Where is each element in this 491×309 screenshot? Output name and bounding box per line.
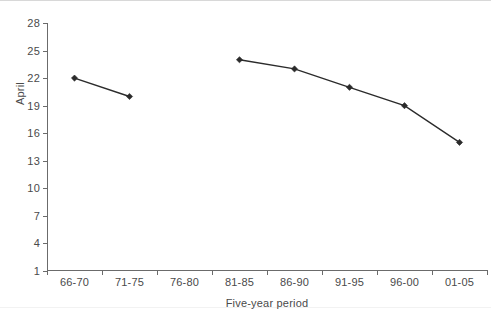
x-tick-label-66-70: 66-70 bbox=[60, 276, 89, 288]
x-tick-label-76-80: 76-80 bbox=[170, 276, 199, 288]
y-tick-label-25: 25 bbox=[27, 45, 40, 57]
x-tick-label-81-85: 81-85 bbox=[225, 276, 254, 288]
x-tick-8 bbox=[487, 270, 488, 275]
x-axis-title: Five-year period bbox=[47, 297, 487, 309]
series-april bbox=[47, 23, 487, 271]
y-tick-label-16: 16 bbox=[27, 127, 40, 139]
y-axis-title: April bbox=[14, 82, 26, 105]
series-segment bbox=[75, 78, 130, 96]
x-tick-label-01-05: 01-05 bbox=[445, 276, 474, 288]
x-tick-label-91-95: 91-95 bbox=[335, 276, 364, 288]
series-segment bbox=[240, 60, 460, 143]
y-tick-label-19: 19 bbox=[27, 100, 40, 112]
x-tick-label-86-90: 86-90 bbox=[280, 276, 309, 288]
data-point-86-90 bbox=[291, 66, 297, 72]
x-tick-label-71-75: 71-75 bbox=[115, 276, 144, 288]
plot-area: 14710131619222528 66-7071-7576-8081-8586… bbox=[47, 23, 487, 270]
y-tick-label-28: 28 bbox=[27, 17, 40, 29]
data-point-81-85 bbox=[236, 57, 242, 63]
data-point-66-70 bbox=[71, 75, 77, 81]
y-tick-label-4: 4 bbox=[34, 237, 40, 249]
y-tick-label-13: 13 bbox=[27, 155, 40, 167]
y-tick-label-22: 22 bbox=[27, 72, 40, 84]
data-point-71-75 bbox=[126, 93, 132, 99]
y-tick-label-7: 7 bbox=[34, 210, 40, 222]
y-tick-label-10: 10 bbox=[27, 182, 40, 194]
x-tick-label-96-00: 96-00 bbox=[390, 276, 419, 288]
data-point-91-95 bbox=[346, 84, 352, 90]
y-tick-label-1: 1 bbox=[34, 265, 40, 277]
